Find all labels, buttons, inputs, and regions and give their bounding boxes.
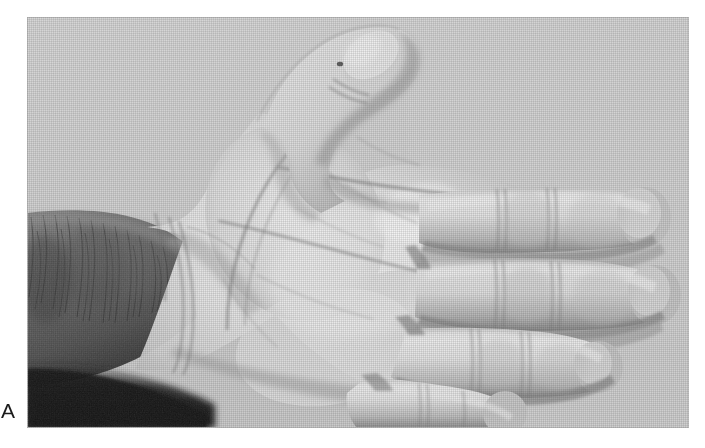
panel-letter-a: A (1, 398, 23, 424)
hand-photograph-svg (27, 17, 689, 428)
figure-panel: A (0, 0, 705, 448)
photo-grain (27, 17, 689, 428)
hand-photograph (27, 17, 689, 428)
